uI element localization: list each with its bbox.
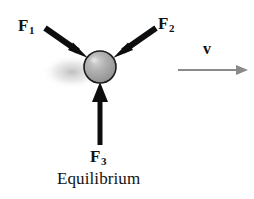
force-label-f1-subscript: 1	[28, 24, 34, 36]
force-arrow-f1	[45, 28, 88, 58]
force-label-f2: F2	[158, 15, 174, 34]
ball-highlight	[89, 56, 98, 64]
figure-caption: Equilibrium	[57, 170, 140, 187]
force-arrow-f3	[92, 82, 108, 145]
force-label-f1-symbol: F	[18, 16, 28, 35]
force-label-f3-symbol: F	[90, 147, 100, 166]
force-label-f3-subscript: 3	[100, 155, 106, 167]
velocity-label: v	[203, 41, 211, 57]
force-label-f2-subscript: 2	[168, 22, 174, 34]
velocity-arrow	[178, 65, 248, 75]
force-label-f1: F1	[18, 17, 34, 36]
physics-force-diagram: F1 F2 F3 v Equilibrium	[0, 0, 254, 199]
force-arrow-f2	[113, 28, 156, 58]
force-label-f2-symbol: F	[158, 14, 168, 33]
force-label-f3: F3	[90, 148, 106, 167]
ball-object	[84, 51, 116, 83]
